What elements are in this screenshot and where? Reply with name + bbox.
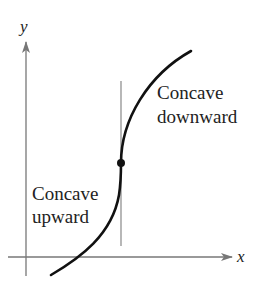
concavity-diagram: y x Concave downward Concave upward	[0, 0, 263, 290]
x-axis-label: x	[236, 247, 245, 266]
y-axis-label: y	[18, 17, 28, 36]
concave-downward-label-line2: downward	[157, 106, 238, 127]
concave-downward-label-line1: Concave	[157, 82, 223, 103]
inflection-point-dot	[117, 159, 125, 167]
concave-upward-label-line1: Concave	[32, 183, 98, 204]
concave-upward-label-line2: upward	[32, 206, 89, 227]
